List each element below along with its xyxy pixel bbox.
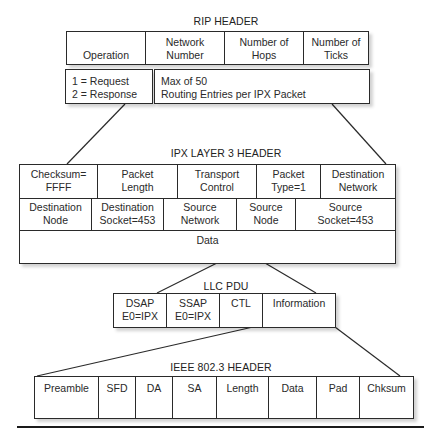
ipx-field-source-node: Source Node bbox=[237, 198, 296, 230]
llc-pdu: DSAP E0=IPX SSAP E0=IPX CTL Information bbox=[113, 293, 336, 328]
ieee-field-length: Length bbox=[217, 377, 269, 418]
ieee-802-3-header: Preamble SFD DA SA Length Data Pad Chksu… bbox=[34, 376, 414, 419]
ipx-field-destination-socket: Destination Socket=453 bbox=[92, 198, 164, 230]
ipx-field-data: Data bbox=[20, 230, 395, 263]
rip-operation-codes: 1 = Request 2 = Response bbox=[65, 69, 153, 104]
rip-routing-entries-note: Max of 50 Routing Entries per IPX Packet bbox=[154, 69, 370, 104]
data-to-llc-right-connector bbox=[265, 263, 316, 293]
ipx-field-checksum: Checksum= FFFF bbox=[20, 165, 98, 198]
ieee-field-pad: Pad bbox=[317, 377, 360, 418]
ipx-row-2: Destination Node Destination Socket=453 … bbox=[20, 198, 395, 231]
llc-field-ssap: SSAP E0=IPX bbox=[167, 294, 220, 327]
rip-field-operation: Operation bbox=[67, 32, 146, 64]
ieee-field-da: DA bbox=[136, 377, 173, 418]
operation-codes-text: 1 = Request 2 = Response bbox=[72, 75, 152, 101]
ieee-field-chksum: Chksum bbox=[360, 377, 413, 418]
routing-entries-text: Max of 50 Routing Entries per IPX Packet bbox=[161, 75, 369, 101]
llc-field-dsap: DSAP E0=IPX bbox=[114, 294, 167, 327]
llc-field-ctl: CTL bbox=[220, 294, 263, 327]
ieee-field-data: Data bbox=[269, 377, 317, 418]
ipx-header-title: IPX LAYER 3 HEADER bbox=[162, 147, 290, 159]
bottom-rule bbox=[17, 426, 424, 428]
ipx-field-packet-length: Packet Length bbox=[98, 165, 178, 198]
llc-field-information: Information bbox=[263, 294, 335, 327]
rip-to-ipx-left-connector bbox=[67, 104, 125, 164]
ipx-field-source-network: Source Network bbox=[164, 198, 237, 230]
ipx-field-destination-node: Destination Node bbox=[20, 198, 92, 230]
ipx-header: Checksum= FFFF Packet Length Transport C… bbox=[19, 164, 396, 264]
llc-pdu-title: LLC PDU bbox=[196, 280, 256, 292]
llc-to-ieee-right-connector bbox=[335, 327, 400, 376]
ieee-header-title: IEEE 802.3 HEADER bbox=[166, 361, 276, 373]
ieee-field-sa: SA bbox=[173, 377, 217, 418]
rip-field-number-of-ticks: Number of Ticks bbox=[304, 32, 368, 64]
ipx-field-packet-type: Packet Type=1 bbox=[257, 165, 321, 198]
ieee-field-preamble: Preamble bbox=[35, 377, 99, 418]
rip-to-ipx-right-connector bbox=[332, 104, 386, 164]
ipx-row-1: Checksum= FFFF Packet Length Transport C… bbox=[20, 165, 395, 199]
ipx-field-transport-control: Transport Control bbox=[178, 165, 257, 198]
ipx-data-row: Data bbox=[20, 230, 395, 263]
ipx-field-source-socket: Source Socket=453 bbox=[296, 198, 395, 230]
rip-field-network-number: Network Number bbox=[146, 32, 225, 64]
rip-header-title: RIP HEADER bbox=[176, 15, 276, 27]
rip-header-fields: Operation Network Number Number of Hops … bbox=[66, 31, 369, 65]
rip-field-number-of-hops: Number of Hops bbox=[225, 32, 304, 64]
ieee-field-sfd: SFD bbox=[99, 377, 136, 418]
ipx-field-destination-network: Destination Network bbox=[321, 165, 395, 198]
